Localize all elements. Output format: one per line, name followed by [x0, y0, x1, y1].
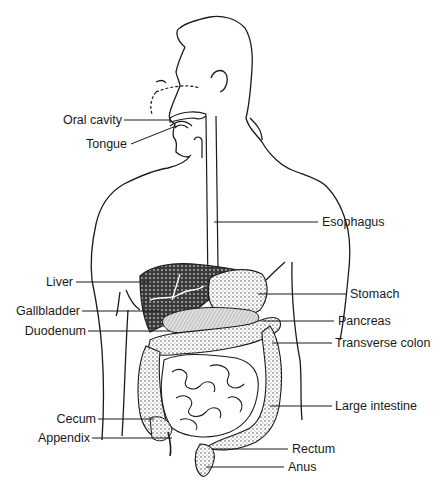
small-intestine-shape	[161, 355, 258, 437]
label-rectum: Rectum	[292, 442, 335, 456]
label-transverse-colon: Transverse colon	[335, 336, 430, 350]
oral-nasal-cavity	[151, 86, 206, 128]
label-gallbladder: Gallbladder	[16, 304, 80, 318]
appendix-shape	[168, 432, 171, 456]
label-large-intestine: Large intestine	[335, 399, 417, 413]
label-appendix: Appendix	[38, 431, 90, 445]
label-tongue: Tongue	[86, 137, 127, 151]
label-pancreas: Pancreas	[338, 314, 391, 328]
label-cecum: Cecum	[56, 412, 96, 426]
label-stomach: Stomach	[350, 287, 399, 301]
label-oral-cavity: Oral cavity	[63, 113, 122, 127]
rectum-shape	[195, 444, 214, 476]
label-duodenum: Duodenum	[25, 324, 86, 338]
label-liver: Liver	[46, 275, 73, 289]
label-anus: Anus	[288, 460, 317, 474]
digestive-system-diagram: Oral cavity Tongue Liver Gallbladder Duo…	[0, 0, 440, 484]
label-esophagus: Esophagus	[322, 215, 385, 229]
